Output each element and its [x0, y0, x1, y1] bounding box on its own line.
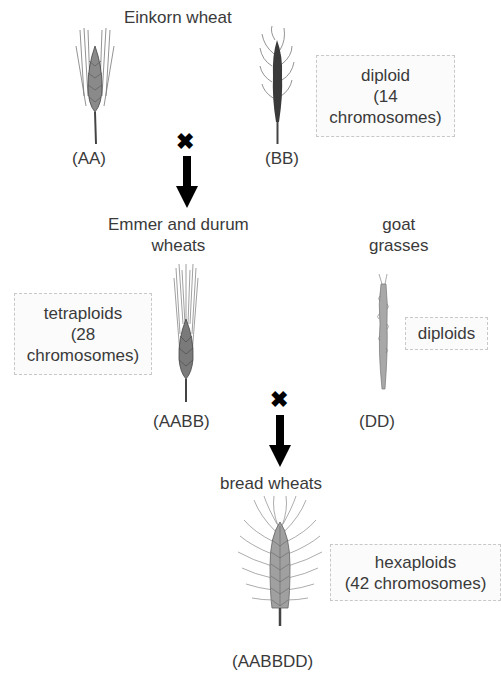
- diploid-info-box: diploid (14 chromosomes): [316, 55, 455, 137]
- einkorn-title: Einkorn wheat: [124, 7, 232, 28]
- spike-bb-icon: [258, 26, 298, 146]
- tetra-line3: chromosomes): [27, 345, 139, 366]
- goat-title-line1: goat: [369, 214, 429, 235]
- diploid-line3: chromosomes): [329, 107, 441, 128]
- emmer-label: (AABB): [153, 411, 210, 432]
- diploid-line1: diploid: [361, 65, 410, 86]
- emmer-title: Emmer and durum wheats: [108, 214, 249, 256]
- goat-title: goat grasses: [369, 214, 429, 256]
- einkorn-spike-aa-icon: [70, 26, 120, 146]
- bread-wheat-spike-icon: [238, 496, 322, 626]
- goat-label: (DD): [359, 411, 395, 432]
- diploid-line2: (14: [373, 86, 398, 107]
- hexa-line2: (42 chromosomes): [345, 573, 487, 594]
- tetra-line1: tetraploids: [44, 303, 122, 324]
- hexaploid-info-box: hexaploids (42 chromosomes): [330, 544, 501, 601]
- tetraploid-info-box: tetraploids (28 chromosomes): [14, 293, 152, 375]
- goat-grass-spike-icon: [372, 274, 396, 394]
- emmer-title-line1: Emmer and durum: [108, 214, 249, 235]
- diploids-line1: diploids: [418, 323, 476, 344]
- bread-wheats-title: bread wheats: [220, 473, 322, 494]
- cross-symbol-icon: ✖: [176, 132, 194, 152]
- emmer-spike-icon: [166, 264, 206, 404]
- tetra-line2: (28: [71, 324, 96, 345]
- cross-symbol-2-icon: ✖: [270, 390, 288, 410]
- spike-bb-label: (BB): [265, 148, 299, 169]
- hexa-line1: hexaploids: [375, 552, 456, 573]
- spike-aa-label: (AA): [72, 148, 106, 169]
- down-arrow-icon: [175, 156, 199, 208]
- bread-wheat-label: (AABBDD): [232, 651, 313, 672]
- diploids-info-box: diploids: [405, 317, 488, 350]
- emmer-title-line2: wheats: [108, 235, 249, 256]
- down-arrow-2-icon: [268, 415, 292, 467]
- goat-title-line2: grasses: [369, 235, 429, 256]
